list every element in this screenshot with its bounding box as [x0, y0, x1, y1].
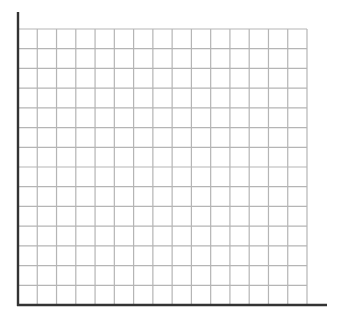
grid-diagram [0, 0, 342, 324]
grid-lines [18, 29, 307, 305]
